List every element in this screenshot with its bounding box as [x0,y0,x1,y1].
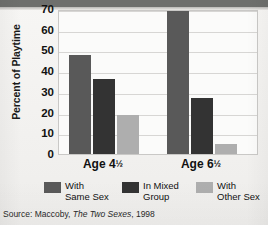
y-axis-ticks: 010203040506070 [28,10,54,155]
y-tick-label: 50 [30,46,54,58]
source-note: Source: Maccoby, The Two Sexes, 1998 [3,209,155,219]
y-axis-title: Percent of Playtime [10,12,22,132]
bar [215,144,237,154]
legend-label-line2: Other Sex [217,192,260,203]
x-axis-label-fraction: ½ [214,159,222,169]
legend-label: WithOther Sex [217,181,260,202]
legend-label-line2: Same Sex [65,192,109,203]
x-axis-label-main: Age 4 [83,157,116,171]
y-tick-label: 40 [30,66,54,78]
y-tick-label: 0 [30,149,54,161]
y-tick-label: 30 [30,87,54,99]
bar-chart: Percent of Playtime 010203040506070 Age … [0,10,268,178]
x-axis-label-main: Age 6 [181,157,214,171]
bar [117,115,139,154]
source-work-title: The Two Sexes [73,209,131,219]
bar [191,98,213,154]
source-suffix: , 1998 [131,209,155,219]
plot-area [58,10,258,155]
bar-series-container [59,11,257,154]
legend-swatch [196,182,213,193]
bar [167,11,189,154]
chart-legend: WithSame SexIn MixedGroupWithOther Sex [0,181,268,204]
bar [69,55,91,154]
legend-label-line1: In Mixed [143,181,179,192]
legend-item: WithSame Sex [44,181,109,202]
y-tick-label: 20 [30,108,54,120]
source-prefix: Source: Maccoby, [3,209,73,219]
legend-label-line1: With [65,181,109,192]
chart-figure: Percent of Playtime 010203040506070 Age … [0,0,268,225]
legend-item: WithOther Sex [196,181,260,202]
y-tick-label: 10 [30,129,54,141]
y-tick-label: 70 [30,4,54,16]
x-axis-label-fraction: ½ [116,159,124,169]
legend-item: In MixedGroup [122,181,179,202]
x-axis-label: Age 6½ [151,157,251,171]
legend-label: WithSame Sex [65,181,109,202]
y-tick-label: 60 [30,25,54,37]
legend-label: In MixedGroup [143,181,179,202]
bar [93,79,115,154]
legend-label-line1: With [217,181,260,192]
legend-swatch [122,182,139,193]
legend-label-line2: Group [143,192,179,203]
legend-swatch [44,182,61,193]
x-axis-label: Age 4½ [53,157,153,171]
x-axis-labels: Age 4½Age 6½ [58,157,258,177]
